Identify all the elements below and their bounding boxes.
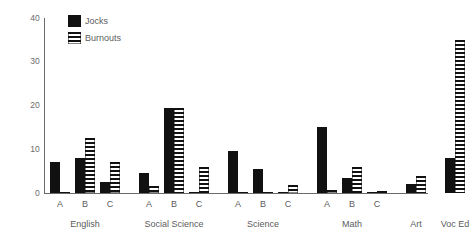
y-tick-label: 0 — [14, 189, 40, 198]
bar-english-B-jocks — [75, 158, 85, 193]
x-axis-line — [44, 193, 428, 194]
category-label-english-B: B — [77, 199, 93, 210]
category-label-social-science-A: A — [141, 199, 157, 210]
bar-voc-ed-burnouts — [455, 40, 465, 193]
bar-math-B-jocks — [342, 178, 352, 193]
group-label-english: English — [40, 219, 130, 230]
y-tick-10: 10 — [10, 145, 40, 154]
category-label-math-A: A — [319, 199, 335, 210]
bar-math-C-jocks — [367, 192, 377, 193]
bar-math-C-burnouts — [377, 191, 387, 193]
bar-social-science-A-burnouts — [149, 186, 159, 193]
bar-social-science-A-jocks — [139, 173, 149, 193]
y-tick-label: 30 — [14, 57, 40, 66]
bar-social-science-B-jocks — [164, 108, 174, 193]
category-label-english-C: C — [102, 199, 118, 210]
category-label-science-A: A — [230, 199, 246, 210]
bar-math-B-burnouts — [352, 167, 362, 193]
bar-english-A-jocks — [50, 162, 60, 193]
group-label-social-science: Social Science — [129, 219, 219, 230]
category-label-science-C: C — [280, 199, 296, 210]
category-label-english-A: A — [52, 199, 68, 210]
category-label-math-C: C — [369, 199, 385, 210]
y-tick-20: 20 — [10, 101, 40, 110]
bar-math-A-burnouts — [327, 190, 337, 194]
y-tick-label: 20 — [14, 101, 40, 110]
y-tick-label: 40 — [14, 14, 40, 23]
category-label-math-B: B — [344, 199, 360, 210]
bar-science-B-jocks — [253, 169, 263, 193]
category-label-science-B: B — [255, 199, 271, 210]
plot-area — [45, 18, 428, 193]
y-tick-40: 40 — [10, 14, 40, 23]
bar-science-C-jocks — [278, 192, 288, 193]
bar-science-C-burnouts — [288, 185, 298, 193]
y-tick-0: 0 — [10, 189, 40, 198]
bar-english-B-burnouts — [85, 138, 95, 193]
bar-english-A-burnouts — [60, 192, 70, 193]
bar-english-C-jocks — [100, 182, 110, 193]
bar-social-science-C-burnouts — [199, 167, 209, 193]
bar-english-C-burnouts — [110, 162, 120, 193]
bar-math-A-jocks — [317, 127, 327, 193]
category-label-social-science-B: B — [166, 199, 182, 210]
bar-science-A-burnouts — [238, 192, 248, 193]
bar-social-science-B-burnouts — [174, 108, 184, 193]
bar-science-B-burnouts — [263, 192, 273, 193]
bar-art-jocks — [406, 184, 416, 193]
bar-art-burnouts — [416, 176, 426, 194]
bar-social-science-C-jocks — [189, 192, 199, 193]
bar-science-A-jocks — [228, 151, 238, 193]
category-label-social-science-C: C — [191, 199, 207, 210]
group-label-voc-ed: Voc Ed — [410, 219, 474, 230]
bar-voc-ed-jocks — [445, 158, 455, 193]
y-tick-label: 10 — [14, 145, 40, 154]
group-label-science: Science — [218, 219, 308, 230]
y-tick-30: 30 — [10, 57, 40, 66]
